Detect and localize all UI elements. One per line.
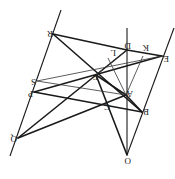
label-P: P — [28, 89, 33, 99]
label-B: B — [143, 107, 149, 117]
line-OE — [127, 28, 174, 155]
segment-RD — [53, 34, 127, 50]
label-L: L — [111, 48, 117, 58]
label-K: K — [142, 43, 149, 53]
geometry-diagram: O A B C D E K L F R S P Q — [0, 0, 175, 179]
label-R: R — [47, 29, 53, 39]
label-S: S — [31, 77, 36, 87]
label-F: F — [93, 72, 98, 82]
label-A: A — [126, 89, 133, 99]
label-E: E — [163, 54, 169, 64]
segment-QA — [18, 95, 126, 138]
label-C: C — [104, 102, 110, 112]
label-D: D — [124, 41, 131, 51]
label-O: O — [124, 156, 131, 166]
label-Q: Q — [10, 134, 17, 144]
